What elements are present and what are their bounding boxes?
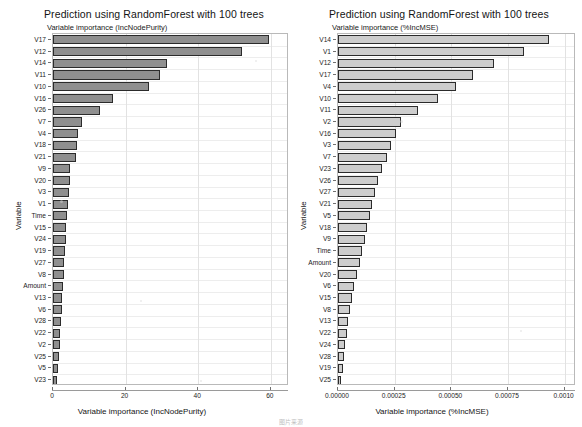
bar bbox=[53, 117, 82, 126]
chart-panel-incnodepurity: Prediction using RandomForest with 100 t… bbox=[0, 0, 291, 427]
bar bbox=[338, 376, 341, 385]
h-gridline bbox=[338, 222, 574, 223]
y-tick-label: V25 bbox=[319, 376, 331, 383]
bar bbox=[338, 223, 367, 232]
y-tick-label: V10 bbox=[34, 82, 46, 89]
y-tick-label: V17 bbox=[319, 71, 331, 78]
y-tick-mark bbox=[48, 98, 51, 99]
bar bbox=[53, 376, 57, 385]
y-tick-mark bbox=[333, 227, 336, 228]
bar bbox=[338, 211, 370, 220]
bar bbox=[53, 70, 160, 79]
y-tick-mark bbox=[333, 215, 336, 216]
scan-speckle bbox=[400, 120, 403, 123]
bar bbox=[338, 305, 350, 314]
y-tick-label: V15 bbox=[34, 223, 46, 230]
bar bbox=[338, 329, 347, 338]
bar bbox=[338, 129, 396, 138]
y-tick-label: V22 bbox=[34, 329, 46, 336]
y-tick-mark bbox=[48, 332, 51, 333]
scan-speckle bbox=[520, 330, 522, 332]
y-tick-mark bbox=[333, 144, 336, 145]
y-tick-label: V7 bbox=[323, 153, 331, 160]
h-gridline bbox=[53, 175, 287, 176]
v-gridline bbox=[508, 34, 509, 384]
y-tick-mark bbox=[333, 98, 336, 99]
bar bbox=[53, 235, 66, 244]
bar bbox=[53, 340, 60, 349]
y-tick-mark bbox=[333, 39, 336, 40]
h-gridline bbox=[53, 210, 287, 211]
y-tick-mark bbox=[333, 51, 336, 52]
y-tick-mark bbox=[333, 133, 336, 134]
y-tick-label: Time bbox=[32, 211, 46, 218]
bar bbox=[53, 246, 65, 255]
h-gridline bbox=[53, 140, 287, 141]
y-tick-mark bbox=[48, 168, 51, 169]
bar bbox=[53, 176, 70, 185]
y-tick-mark bbox=[48, 379, 51, 380]
bar bbox=[338, 282, 354, 291]
scan-speckle bbox=[330, 250, 332, 252]
h-gridline bbox=[53, 151, 287, 152]
h-gridline bbox=[53, 363, 287, 364]
v-gridline bbox=[198, 34, 199, 384]
bar bbox=[53, 211, 67, 220]
h-gridline bbox=[338, 374, 574, 375]
h-gridline bbox=[53, 351, 287, 352]
y-tick-mark bbox=[48, 309, 51, 310]
y-tick-mark bbox=[48, 367, 51, 368]
v-gridline bbox=[271, 34, 272, 384]
y-tick-mark bbox=[333, 180, 336, 181]
y-tick-label: V2 bbox=[38, 340, 46, 347]
bar bbox=[53, 106, 100, 115]
y-tick-mark bbox=[48, 215, 51, 216]
y-tick-label: V20 bbox=[319, 270, 331, 277]
y-tick-label: V11 bbox=[320, 106, 331, 113]
bar bbox=[338, 258, 360, 267]
bar bbox=[338, 153, 387, 162]
h-gridline bbox=[338, 280, 574, 281]
y-tick-label: V19 bbox=[319, 364, 331, 371]
scan-speckle bbox=[255, 60, 257, 62]
bar bbox=[338, 340, 345, 349]
y-tick-mark bbox=[333, 285, 336, 286]
y-tick-label: V26 bbox=[34, 106, 46, 113]
y-tick-label: V24 bbox=[319, 340, 331, 347]
y-tick-label: V26 bbox=[319, 176, 331, 183]
bar bbox=[53, 164, 70, 173]
bar bbox=[338, 188, 375, 197]
y-tick-mark bbox=[48, 121, 51, 122]
bar bbox=[338, 117, 401, 126]
y-tick-label: V13 bbox=[319, 317, 331, 324]
y-tick-mark bbox=[333, 74, 336, 75]
y-tick-mark bbox=[48, 203, 51, 204]
y-tick-mark bbox=[48, 274, 51, 275]
y-tick-mark bbox=[333, 297, 336, 298]
y-tick-label: V5 bbox=[323, 211, 331, 218]
bar bbox=[53, 35, 269, 44]
x-tick-label: 0.00000 bbox=[325, 392, 349, 399]
y-tick-label: V17 bbox=[34, 35, 46, 42]
x-tick-mark bbox=[270, 387, 271, 390]
y-tick-label: V25 bbox=[34, 352, 46, 359]
y-tick-mark bbox=[48, 238, 51, 239]
x-tick-label: 20 bbox=[121, 392, 128, 399]
plot-area-left bbox=[52, 33, 288, 385]
bar bbox=[338, 94, 438, 103]
h-gridline bbox=[53, 339, 287, 340]
y-tick-label: V24 bbox=[34, 235, 46, 242]
y-tick-label: V2 bbox=[323, 118, 331, 125]
bar bbox=[53, 282, 63, 291]
bar bbox=[338, 70, 473, 79]
y-tick-mark bbox=[333, 156, 336, 157]
y-tick-label: V1 bbox=[323, 47, 331, 54]
y-tick-label: V1 bbox=[38, 200, 46, 207]
y-tick-mark bbox=[333, 168, 336, 169]
bar bbox=[338, 293, 352, 302]
chart-subtitle-left: Variable importance (IncNodePurity) bbox=[47, 23, 167, 32]
x-tick-label: 40 bbox=[194, 392, 201, 399]
y-tick-label: V3 bbox=[38, 188, 46, 195]
h-gridline bbox=[338, 245, 574, 246]
y-tick-label: V3 bbox=[323, 141, 331, 148]
